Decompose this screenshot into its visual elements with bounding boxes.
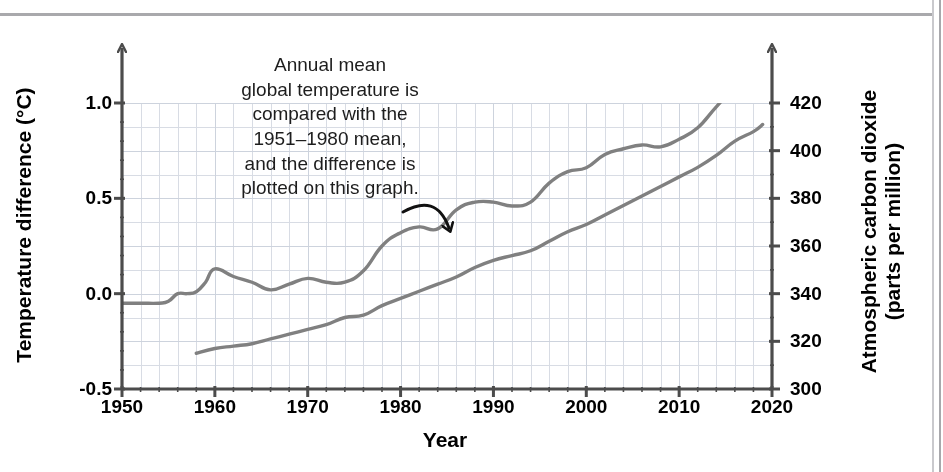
right-axis-tick-label: 300 [790, 378, 822, 400]
left-axis-tick-label: 1.0 [86, 92, 112, 114]
left-axis-title: Temperature difference (°C) [12, 55, 36, 395]
right-axis-tick-label: 420 [790, 92, 822, 114]
left-axis-tick-label: 0.0 [86, 283, 112, 305]
annotation-line: 1951–1980 mean, [196, 127, 464, 152]
right-axis-tick-label: 380 [790, 187, 822, 209]
page-right-rule-inner [932, 0, 934, 472]
x-axis-tick-label: 2020 [751, 396, 793, 418]
x-axis-tick-label: 1970 [287, 396, 329, 418]
right-axis-title: Atmospheric carbon dioxide (parts per mi… [857, 62, 904, 402]
x-axis-tick-label: 1960 [194, 396, 236, 418]
right-axis-title-line1: Atmospheric carbon dioxide [857, 62, 881, 402]
annotation-line: Annual mean [196, 53, 464, 78]
x-axis-tick-label: 2010 [658, 396, 700, 418]
annotation-line: and the difference is [196, 152, 464, 177]
x-axis-tick-label: 1980 [379, 396, 421, 418]
x-axis-tick-label: 1990 [472, 396, 514, 418]
right-axis-title-line2: (parts per million) [881, 62, 905, 402]
right-axis-tick-label: 340 [790, 283, 822, 305]
page-right-rule-outer [939, 0, 941, 472]
annotation-line: plotted on this graph. [196, 176, 464, 201]
right-axis-tick-label: 320 [790, 330, 822, 352]
annotation-line: compared with the [196, 102, 464, 127]
x-axis-title: Year [0, 428, 890, 452]
figure-page: 1.00.50.0-0.5 420400380360340320300 Temp… [0, 0, 943, 472]
right-axis-tick-labels: 420400380360340320300 [790, 0, 860, 472]
x-axis-tick-label: 2000 [565, 396, 607, 418]
right-axis-tick-label: 360 [790, 235, 822, 257]
annotation-text: Annual meanglobal temperature iscompared… [196, 53, 464, 201]
left-axis-tick-label: 0.5 [86, 187, 112, 209]
annotation-line: global temperature is [196, 78, 464, 103]
x-axis-tick-label: 1950 [101, 396, 143, 418]
right-axis-tick-label: 400 [790, 140, 822, 162]
